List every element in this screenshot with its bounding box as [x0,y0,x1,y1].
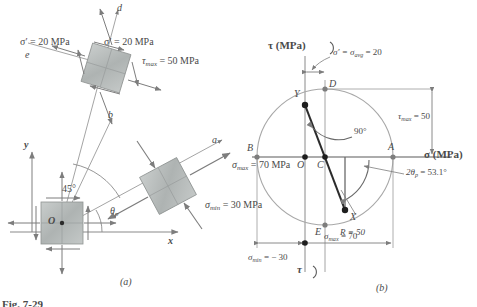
tau-max-subscript-b: max [401,116,411,122]
sigma-min-value-b: = − 30 [264,252,288,262]
dot-X [342,207,348,213]
label-C: C [317,160,324,170]
angle-90-label: 90° [354,127,367,136]
figure-root: d e b a σ′ = 20 MPa σ′ = 20 MPa τmax = 5… [0,0,477,307]
angle-90-arc [313,128,352,140]
sigma-avg-label: σ′ = σavg = 20 [333,48,382,58]
sigma-avg-subscript: avg [354,52,363,58]
arrow-sigma-max-right [190,153,230,175]
caption-a: (a) [120,277,132,287]
tau-sign-convention-bottom-icon [313,266,316,278]
tau-max-label-a: τmax = 50 MPa [142,56,199,67]
two-theta-p-subscript: p [415,172,418,178]
figure-number-label: Fig. 7-29 [2,299,43,307]
panel-a-geometry [8,9,230,274]
arrow-sigma-min-top [137,141,155,168]
arrow-sigma-prime-right [128,80,161,90]
sigma-max-subscript-a: max [237,164,248,171]
label-D: D [329,79,336,89]
label-O: O [297,160,304,170]
dot-A [390,154,395,159]
sigma-prime-right-label: σ′ = 20 MPa [104,37,154,47]
axis-a-line [60,140,222,228]
caption-b: (b) [376,283,388,293]
axis-b-label: b [108,110,113,120]
two-theta-p-arc [347,160,369,199]
dot-Y [302,102,308,108]
theta-p-subscript: p [115,210,118,217]
label-E: E [315,227,321,237]
two-theta-p-leader [364,166,404,174]
label-A: A [388,142,394,152]
axis-d-label: d [117,3,122,13]
sigma-min-value-a: = 30 MPa [223,199,263,210]
origin-dot [60,221,64,225]
sigma-avg-value: = 20 [366,47,382,57]
tau-max-subscript-a: max [146,60,157,67]
sigma-max-value-a: = 70 MPa [251,159,291,170]
axis-e-label: e [25,50,29,60]
sigma-max-subscript-b: max [328,236,338,242]
sigma-min-label-b: σmin = − 30 [248,253,288,263]
sigma-max-value-b: = 70 [341,231,357,241]
tau-axis-bottom-label: τ [297,264,302,275]
figure-vector-layer [0,0,477,307]
arrow-sigma-min-bottom [184,203,202,229]
element-principal [140,158,197,215]
sigma-avg-prefix: σ′ = σ [333,47,354,57]
dot-D [322,86,327,91]
theta-p-label: θp [110,206,118,217]
tau-max-value-b: = 50 [414,111,430,121]
tau-axis-label: τ (MPa) [268,40,306,51]
y-axis-label: y [24,140,28,150]
dot-E [322,222,327,227]
label-X: X [350,212,356,222]
label-Y: Y [294,89,300,99]
x-axis-label: x [168,236,173,246]
two-theta-p-prefix: 2θ [406,167,415,177]
origin-label-a: O [48,216,55,226]
theta-p-arc [96,210,102,232]
sigma-prime-left-label: σ′ = 20 MPa [20,37,70,47]
sigma-avg-leader [312,57,330,70]
label-B: B [247,143,253,153]
sigma-min-subscript-b: min [252,257,261,263]
dot-origin-bottom [302,240,308,246]
tau-max-value-a: = 50 MPa [159,55,199,66]
sigma-min-subscript-a: min [210,204,220,211]
sigma-min-label-a: σmin = 30 MPa [205,200,262,211]
tau-max-label-b: τmax = 50 [398,112,430,122]
axis-a-label: a [212,135,217,145]
angle-45-arc [73,164,120,198]
two-theta-p-label: 2θp = 53.1° [406,168,447,178]
sigma-max-label-a: σmax = 70 MPa [232,160,290,171]
angle-45-label: 45° [62,184,76,194]
sigma-max-label-b: σmax = 70 [324,232,357,242]
element-maxshear [81,43,131,93]
arrow-taumax-left [78,50,84,74]
two-theta-p-value: = 53.1° [420,167,447,177]
sigma-axis-label: σ (MPa) [424,149,463,160]
